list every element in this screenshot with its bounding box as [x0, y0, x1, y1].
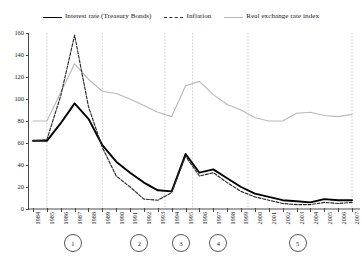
legend-item: Inflation [164, 13, 211, 20]
y-axis-tick-label: 100 [14, 96, 24, 102]
x-axis-tick-label: 1999 [243, 212, 249, 224]
y-axis-tick-label: 120 [14, 74, 24, 80]
x-axis-tick-label: 1991 [132, 212, 138, 224]
legend-item-label: Interest rate (Treasury Bonds) [65, 13, 152, 20]
legend-item: Real exchange rate index [224, 13, 319, 20]
solid-gray-line-swatch [224, 14, 243, 21]
dashed-black-line-swatch [164, 14, 183, 21]
y-axis-tick-label: 20 [18, 184, 24, 190]
phase-circle-5: 5 [289, 234, 307, 252]
x-axis-tick-label: 1985 [49, 212, 55, 224]
x-axis-tick-label: 1998 [230, 212, 236, 224]
x-axis-tick-label: 2004 [313, 212, 319, 224]
x-axis-tick-label: 2003 [299, 212, 305, 224]
x-axis-tick-label: 2001 [271, 212, 277, 224]
y-axis-tick-label: 40 [18, 162, 24, 168]
x-axis-tick-label: 1995 [188, 212, 194, 224]
y-axis-tick-label: 60 [18, 140, 24, 146]
plot-area [29, 33, 360, 209]
x-axis-tick-label: 2006 [341, 212, 347, 224]
x-axis-tick-label: 1996 [202, 212, 208, 224]
phase-circle-2: 2 [130, 234, 148, 252]
phase-circle-3: 3 [172, 234, 190, 252]
x-axis-tick-label: 1992 [146, 212, 152, 224]
legend-item-label: Inflation [186, 13, 211, 20]
x-axis-tick-label: 2005 [327, 212, 333, 224]
y-axis-tick-label: 80 [18, 118, 24, 124]
x-axis-tick-label: 2000 [257, 212, 263, 224]
y-axis-tick-label: 140 [14, 52, 24, 58]
y-axis: 020406080100120140160 [0, 26, 29, 216]
chart-legend: Interest rate (Treasury Bonds)InflationR… [0, 10, 362, 24]
x-axis-tick-label: 1989 [105, 212, 111, 224]
phase-markers: 12345 [29, 234, 360, 256]
y-axis-tick-label: 160 [14, 30, 24, 36]
phase-circle-4: 4 [209, 234, 227, 252]
x-axis-tick-label: 1990 [119, 212, 125, 224]
x-axis-tick-label: 2007 [354, 212, 360, 224]
y-axis-tick-label: 0 [21, 206, 24, 212]
chart-figure: Interest rate (Treasury Bonds)InflationR… [0, 0, 362, 259]
x-axis-tick-label: 1997 [216, 212, 222, 224]
x-axis: 1984198519861987198819891990199119921993… [29, 212, 360, 236]
x-axis-tick-label: 1984 [35, 212, 41, 224]
x-axis-tick-label: 2002 [285, 212, 291, 224]
x-axis-tick-mark [338, 208, 339, 212]
x-axis-tick-label: 1988 [91, 212, 97, 224]
x-axis-tick-label: 1993 [160, 212, 166, 224]
x-axis-tick-label: 1994 [174, 212, 180, 224]
legend-item-label: Real exchange rate index [246, 13, 319, 20]
phase-circle-1: 1 [64, 234, 82, 252]
solid-black-line-swatch [43, 14, 62, 21]
x-axis-tick-label: 1987 [77, 212, 83, 224]
x-axis-tick-label: 1986 [63, 212, 69, 224]
legend-item: Interest rate (Treasury Bonds) [43, 13, 152, 20]
